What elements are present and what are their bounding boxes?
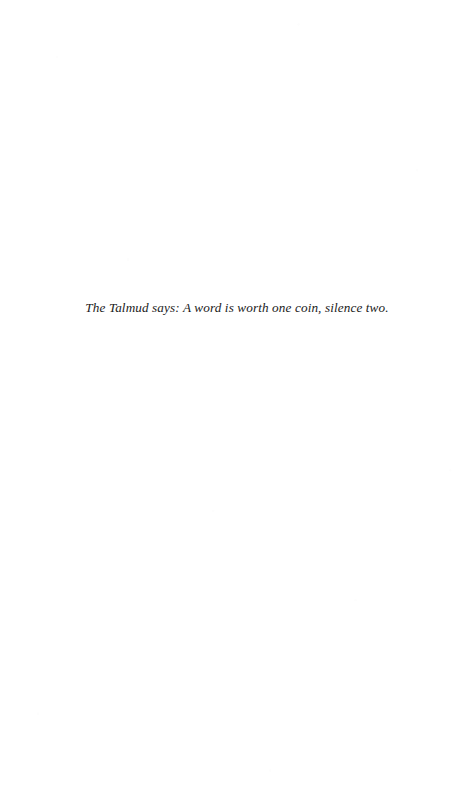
epigraph-block: The Talmud says: A word is worth one coi… [0, 286, 474, 329]
scan-grain-texture [0, 0, 474, 811]
epigraph-text: The Talmud says: A word is worth one coi… [85, 299, 388, 316]
scanned-page: The Talmud says: A word is worth one coi… [0, 0, 474, 811]
